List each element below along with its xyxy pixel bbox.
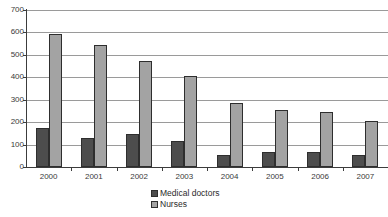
bar-medical-doctors-2004 [217, 155, 230, 167]
x-axis-tick-mark [252, 167, 253, 171]
y-axis-tick-label: 0 [2, 163, 24, 171]
x-axis-tick-mark [298, 167, 299, 171]
y-axis-tick-mark [23, 167, 27, 168]
x-axis-tick-label-2006: 2006 [300, 172, 340, 181]
y-axis-tick-mark [23, 122, 27, 123]
x-axis-tick-mark [71, 167, 72, 171]
legend-item-nurses: Nurses [0, 199, 388, 210]
legend-swatch-medical-doctors [151, 190, 158, 197]
y-axis-tick-label: 400 [2, 73, 24, 81]
legend-swatch-nurses [151, 201, 158, 208]
y-axis-tick-label: 600 [2, 28, 24, 36]
chart-legend: Medical doctors Nurses [0, 188, 388, 210]
x-axis-tick-mark [343, 167, 344, 171]
bar-medical-doctors-2000 [36, 128, 49, 167]
x-axis-tick-label-2003: 2003 [164, 172, 204, 181]
x-axis-tick-label-2001: 2001 [74, 172, 114, 181]
legend-item-medical-doctors: Medical doctors [0, 188, 388, 199]
y-axis-tick-mark [23, 32, 27, 33]
x-axis-tick-mark [162, 167, 163, 171]
x-axis-tick-label-2007: 2007 [345, 172, 385, 181]
y-axis-tick-labels: 0100200300400500600700 [0, 0, 24, 217]
bar-nurses-2003 [184, 76, 197, 167]
bar-group-2002 [126, 10, 152, 167]
bar-nurses-2000 [49, 34, 62, 167]
legend-label-nurses: Nurses [160, 199, 187, 209]
bar-chart: 0100200300400500600700 20002001200220032… [0, 0, 388, 217]
y-axis-tick-mark [23, 10, 27, 11]
x-axis-tick-label-2005: 2005 [255, 172, 295, 181]
bar-group-2006 [307, 10, 333, 167]
bar-nurses-2006 [320, 112, 333, 167]
y-axis-tick-mark [23, 100, 27, 101]
bar-nurses-2001 [94, 45, 107, 167]
y-axis-tick-label: 200 [2, 118, 24, 126]
y-axis-tick-mark [23, 145, 27, 146]
bar-medical-doctors-2007 [352, 155, 365, 167]
y-axis-tick-label: 700 [2, 6, 24, 14]
x-axis-tick-label-2002: 2002 [119, 172, 159, 181]
bar-medical-doctors-2002 [126, 134, 139, 167]
bar-group-2005 [262, 10, 288, 167]
y-axis-tick-label: 300 [2, 96, 24, 104]
y-axis-tick-label: 100 [2, 141, 24, 149]
bar-group-2003 [171, 10, 197, 167]
x-axis-tick-mark [117, 167, 118, 171]
x-axis-tick-mark [207, 167, 208, 171]
y-axis-tick-mark [23, 55, 27, 56]
bar-nurses-2004 [230, 103, 243, 167]
bar-group-2007 [352, 10, 378, 167]
bar-nurses-2005 [275, 110, 288, 167]
bar-medical-doctors-2003 [171, 141, 184, 167]
plot-area [26, 10, 388, 167]
y-axis-tick-label: 500 [2, 51, 24, 59]
x-axis-tick-label-2004: 2004 [210, 172, 250, 181]
legend-label-medical-doctors: Medical doctors [160, 188, 220, 198]
bar-medical-doctors-2001 [81, 138, 94, 167]
bar-group-2001 [81, 10, 107, 167]
bar-nurses-2002 [139, 61, 152, 167]
y-axis-tick-mark [23, 77, 27, 78]
bar-group-2000 [36, 10, 62, 167]
bar-medical-doctors-2005 [262, 152, 275, 167]
bar-group-2004 [217, 10, 243, 167]
bar-medical-doctors-2006 [307, 152, 320, 167]
x-axis-tick-label-2000: 2000 [29, 172, 69, 181]
bar-nurses-2007 [365, 121, 378, 167]
